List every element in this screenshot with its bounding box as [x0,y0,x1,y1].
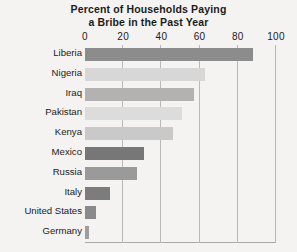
bar-united-states [85,206,96,219]
category-label-pakistan: Pakistan [0,106,82,118]
x-tick-label-20: 20 [108,31,138,43]
category-label-italy: Italy [0,186,82,198]
bar-kenya [85,127,173,140]
bar-row: Russia [0,164,297,184]
x-tick-label-40: 40 [146,31,176,43]
category-label-iraq: Iraq [0,87,82,99]
bar-liberia [85,48,253,61]
bar-row: Liberia [0,45,297,65]
x-tick-label-80: 80 [223,31,253,43]
bar-row: Kenya [0,124,297,144]
chart-title-line-1: Percent of Households Paying [0,3,297,16]
category-label-united-states: United States [0,205,82,217]
chart-title: Percent of Households Paying a Bribe in … [0,3,297,29]
category-label-kenya: Kenya [0,126,82,138]
bar-row: Nigeria [0,65,297,85]
bar-row: Germany [0,223,297,243]
x-tick-label-60: 60 [185,31,215,43]
category-label-mexico: Mexico [0,146,82,158]
bar-row: Iraq [0,85,297,105]
bar-mexico [85,147,144,160]
bar-row: United States [0,203,297,223]
category-label-russia: Russia [0,166,82,178]
category-label-nigeria: Nigeria [0,67,82,79]
bar-chart: Percent of Households Paying a Bribe in … [0,0,297,252]
category-label-germany: Germany [0,225,82,237]
bar-italy [85,187,110,200]
chart-title-line-2: a Bribe in the Past Year [0,16,297,29]
x-tick-label-0: 0 [70,31,100,43]
bar-iraq [85,88,194,101]
bar-row: Pakistan [0,104,297,124]
bar-germany [85,226,89,239]
bar-rows: LiberiaNigeriaIraqPakistanKenyaMexicoRus… [0,45,297,243]
x-axis-tick-labels: 020406080100 [0,31,297,44]
bar-nigeria [85,68,205,81]
bar-row: Italy [0,184,297,204]
bar-pakistan [85,107,182,120]
x-tick-label-100: 100 [261,31,291,43]
bar-russia [85,167,137,180]
category-label-liberia: Liberia [0,47,82,59]
bar-row: Mexico [0,144,297,164]
